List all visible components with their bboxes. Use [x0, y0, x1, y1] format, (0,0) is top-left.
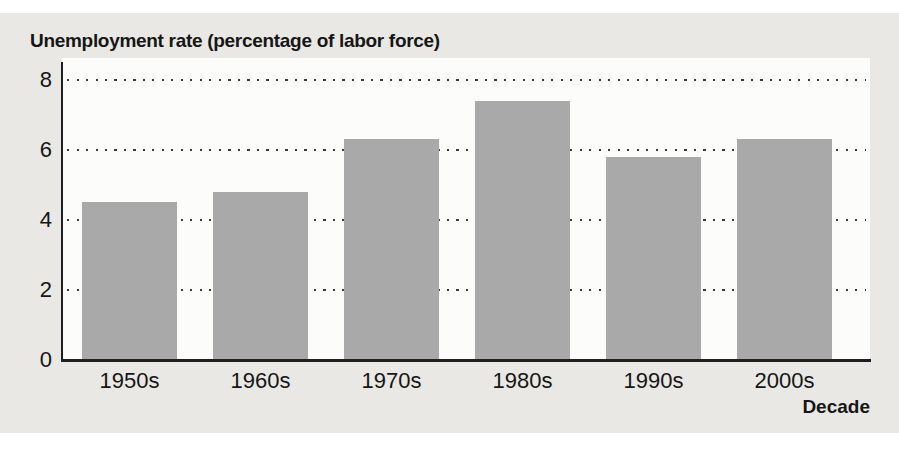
x-axis-title: Decade: [720, 396, 870, 418]
x-category-label-2000s: 2000s: [719, 369, 850, 393]
bar-1960s: [213, 192, 308, 360]
x-axis-line: [61, 359, 871, 362]
x-category-label-1960s: 1960s: [195, 369, 326, 393]
bar-2000s: [737, 139, 832, 360]
y-tick-label-0: 0: [16, 347, 52, 373]
y-tick-label-4: 4: [16, 207, 52, 233]
y-tick-label-6: 6: [16, 137, 52, 163]
y-tick-label-2: 2: [16, 277, 52, 303]
scanned-page: Unemployment rate (percentage of labor f…: [0, 0, 899, 449]
bar-1970s: [344, 139, 439, 360]
x-category-label-1970s: 1970s: [326, 369, 457, 393]
x-category-label-1950s: 1950s: [64, 369, 195, 393]
chart-title: Unemployment rate (percentage of labor f…: [30, 30, 440, 52]
bar-1990s: [606, 157, 701, 360]
y-tick-label-8: 8: [16, 67, 52, 93]
y-axis-line: [61, 62, 63, 360]
gridline-y-8: [67, 79, 866, 81]
x-category-label-1980s: 1980s: [457, 369, 588, 393]
figure-panel: Unemployment rate (percentage of labor f…: [0, 13, 899, 433]
bar-1980s: [475, 101, 570, 360]
x-category-label-1990s: 1990s: [588, 369, 719, 393]
bar-1950s: [82, 202, 177, 360]
